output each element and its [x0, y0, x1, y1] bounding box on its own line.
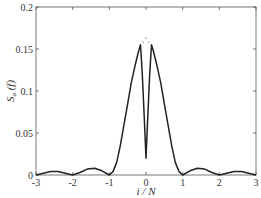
annotation-dot	[148, 42, 149, 43]
x-axis-label: i / N	[137, 185, 157, 197]
x-tick-label: -1	[105, 177, 113, 188]
y-tick-label: 0.2	[21, 2, 34, 13]
y-tick-label: 0.15	[16, 44, 34, 55]
x-tick-label: 1	[180, 177, 185, 188]
y-tick-label: 0	[28, 170, 33, 181]
y-axis-label: Sa (f)	[4, 80, 18, 102]
y-tick-label: 0.1	[21, 86, 34, 97]
x-tick-label: -2	[68, 177, 76, 188]
chart-background	[0, 0, 261, 198]
annotation-dot	[145, 37, 146, 38]
x-tick-label: -3	[32, 177, 40, 188]
x-tick-label: 2	[217, 177, 222, 188]
annotation-dot	[142, 42, 143, 43]
x-tick-label: 3	[254, 177, 259, 188]
y-axis-label-argument: (f)	[4, 80, 17, 93]
line-chart: -3-2-10123 00.050.10.150.2 i / N Sa (f)	[0, 0, 261, 198]
y-tick-label: 0.05	[16, 128, 34, 139]
